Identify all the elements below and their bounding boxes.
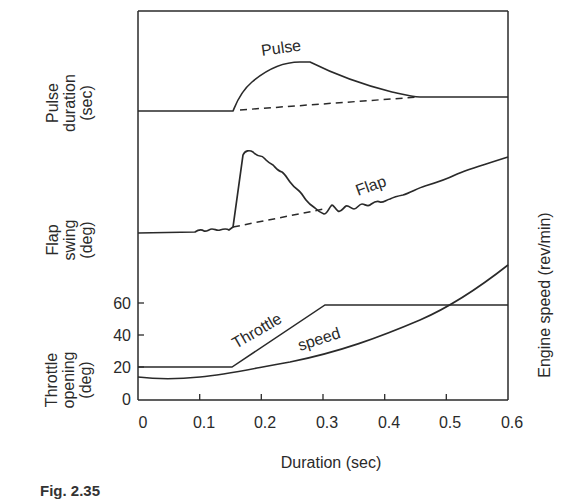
y-tick-labels: 60 40 20 0 [113,295,131,408]
flap-ylabel-line: (deg) [78,205,95,275]
throttle-ylabel: Throttle opening (deg) [43,325,97,435]
y-tick-label: 20 [113,359,131,376]
flap-ylabel-line: Flap [44,205,61,275]
x-tick-label: 0 [139,414,148,431]
pulse-series [138,62,508,111]
figure-caption: Fig. 2.35 [40,482,100,499]
speed-series [138,265,508,379]
throttle-annotation: Throttle [229,310,285,352]
y-axis-ticks [138,303,144,367]
x-tick-labels: 0 0.1 0.2 0.3 0.4 0.5 0.6 [139,414,524,431]
pulse-annotation: Pulse [260,37,302,59]
x-tick-label: 0.6 [501,414,523,431]
x-tick-label: 0.4 [378,414,400,431]
pulse-ylabel: Pulse duration (sec) [44,53,98,153]
pulse-ylabel-line: (sec) [78,53,95,153]
flap-series [138,151,508,233]
throttle-ylabel-line: opening [60,325,77,435]
x-axis-label: Duration (sec) [281,454,381,471]
flap-ylabel-line: swing [61,205,78,275]
throttle-ylabel-line: Throttle [43,325,60,435]
x-tick-label: 0.3 [316,414,338,431]
engine-speed-ylabel: Engine speed (rev/min) [536,190,554,400]
speed-annotation: speed [296,324,343,354]
x-tick-label: 0.2 [254,414,276,431]
x-tick-label: 0.1 [193,414,215,431]
y-tick-label: 40 [113,327,131,344]
x-axis-ticks [200,394,447,400]
pulse-ylabel-line: duration [61,53,78,153]
pulse-ylabel-line: Pulse [44,53,61,153]
x-tick-label: 0.5 [439,414,461,431]
y-tick-label: 0 [122,391,131,408]
y-tick-label: 60 [113,295,131,312]
throttle-ylabel-line: (deg) [77,325,94,435]
flap-ylabel: Flap swing (deg) [44,205,98,275]
flap-annotation: Flap [353,172,388,199]
